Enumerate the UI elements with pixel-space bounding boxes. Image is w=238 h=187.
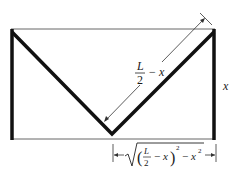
bottom-L: L	[143, 146, 149, 156]
height-label: x	[222, 79, 229, 93]
bottom-exp2: 2	[198, 147, 202, 155]
slant-label-denominator: 2	[137, 73, 143, 87]
v-wire	[12, 32, 214, 134]
bottom-arrow-left-head	[114, 153, 118, 157]
slant-label-minus: −	[149, 65, 156, 79]
bottom-2: 2	[144, 158, 149, 168]
paren-close: )	[170, 149, 175, 167]
slant-label-x: x	[158, 65, 165, 79]
slant-tick	[200, 13, 212, 25]
diagram-canvas: L 2 − x x ( L 2 − x ) 2 − x 2	[0, 0, 238, 187]
slant-label-numerator: L	[136, 59, 144, 73]
bottom-arrow-right-head	[211, 153, 215, 157]
bottom-x2: x	[190, 150, 196, 162]
bottom-x1: x	[162, 150, 168, 162]
bottom-minus1: −	[154, 150, 160, 162]
arrow-head-lower	[104, 116, 109, 122]
bottom-minus2: −	[182, 150, 188, 162]
slant-dimension-line-upper	[162, 19, 204, 62]
bottom-exp1: 2	[176, 144, 180, 152]
slant-dimension-line-lower	[105, 85, 140, 121]
paren-open: (	[137, 149, 142, 167]
